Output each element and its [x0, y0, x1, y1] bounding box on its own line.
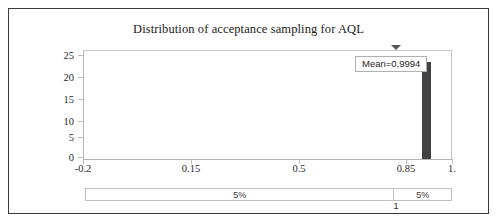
chart-figure: Distribution of acceptance sampling for …: [0, 0, 497, 222]
x-axis-tick-label: 1.: [448, 163, 456, 174]
bar-series-point: [422, 62, 432, 159]
x-axis-tick-label: -0.2: [75, 163, 92, 174]
mean-marker-triangle-down: [391, 45, 401, 50]
x-axis-tick-label: 0.85: [397, 163, 415, 174]
x-axis-tick-label: 0.15: [182, 163, 200, 174]
y-axis-tick-label: 25: [44, 51, 74, 61]
y-axis-tick-label: 15: [44, 95, 74, 105]
band-divider-label: 1: [393, 201, 398, 211]
mean-callout-label: Mean=0,9994: [355, 56, 427, 72]
x-axis-line: [83, 159, 453, 160]
y-axis-tick-label: 0: [44, 153, 74, 163]
percentage-segment-left: 5%: [86, 189, 394, 200]
y-axis-tick-label: 20: [44, 73, 74, 83]
y-axis-tick-label: 5: [44, 133, 74, 143]
y-axis-tick-label: 10: [44, 117, 74, 127]
percentage-segment-right: 5%: [394, 189, 451, 200]
x-axis-tick-label: 0.5: [292, 163, 305, 174]
acceptance-percentage-band: 5% 5%: [85, 188, 452, 201]
y-axis-line: [83, 50, 84, 160]
chart-title: Distribution of acceptance sampling for …: [0, 22, 497, 37]
